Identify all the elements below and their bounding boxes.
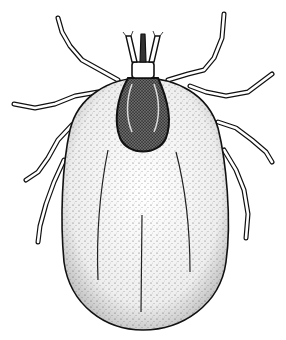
tick-capitulum <box>123 31 163 78</box>
tick-scutum <box>117 78 169 152</box>
tick-illustration <box>0 0 286 340</box>
